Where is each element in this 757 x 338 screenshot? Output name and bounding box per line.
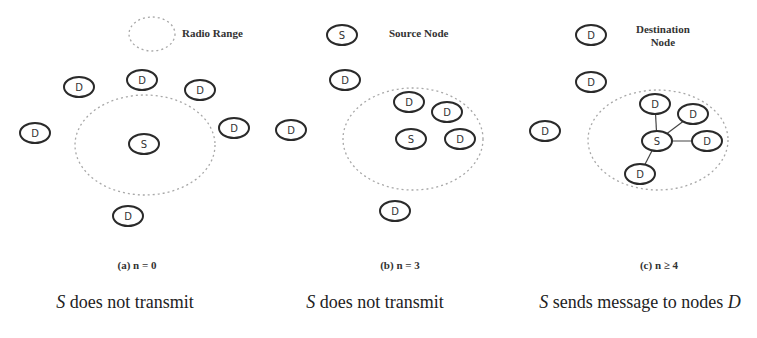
destination-node: D	[625, 164, 655, 184]
panel-b-caption: (b) n = 3	[380, 259, 420, 271]
source-node: S	[396, 129, 426, 149]
svg-text:D: D	[230, 123, 238, 134]
legend-destination-line2: Node	[636, 36, 690, 49]
description-text: sends message to nodes	[548, 292, 727, 312]
panel-c-caption: (c) n ≥ 4	[640, 259, 678, 271]
destination-node: D	[185, 80, 215, 100]
svg-text:D: D	[75, 82, 83, 93]
legend-source-node-icon: S	[327, 25, 357, 45]
destination-node: D	[432, 102, 462, 122]
legend-destination-line1: Destination	[636, 23, 690, 36]
destination-node: D	[64, 77, 94, 97]
panel-c: DDDDDDS	[530, 72, 728, 190]
destination-node: D	[276, 120, 306, 140]
destination-node: D	[692, 131, 722, 151]
svg-text:D: D	[443, 107, 451, 118]
svg-text:D: D	[689, 109, 697, 120]
legend-destination-node-icon: D	[576, 25, 606, 45]
svg-text:D: D	[391, 206, 399, 217]
svg-text:D: D	[651, 99, 659, 110]
panel-a: DDDDDDS	[20, 70, 249, 226]
destination-node: D	[113, 206, 143, 226]
source-node: S	[642, 131, 672, 151]
panel-a-caption: (a) n = 0	[118, 259, 157, 271]
svg-text:D: D	[124, 211, 132, 222]
subject-s: S	[539, 292, 548, 312]
svg-text:D: D	[636, 169, 644, 180]
description-text: does not transmit	[315, 292, 444, 312]
destination-node: D	[219, 118, 249, 138]
destination-node: D	[530, 121, 560, 141]
legend-radio-range-label: Radio Range	[182, 27, 243, 39]
svg-text:D: D	[456, 134, 464, 145]
panel-c-description: S sends message to nodes D	[539, 292, 740, 313]
subject-s: S	[56, 292, 65, 312]
destination-node: D	[330, 70, 360, 90]
legend-source-node-label: Source Node	[389, 27, 448, 39]
destination-node: D	[445, 129, 475, 149]
svg-text:D: D	[287, 125, 295, 136]
svg-text:D: D	[31, 128, 39, 139]
svg-text:D: D	[541, 126, 549, 137]
svg-text:S: S	[654, 136, 660, 147]
svg-text:D: D	[196, 85, 204, 96]
destination-node: D	[640, 94, 670, 114]
destination-node: D	[576, 72, 606, 92]
svg-text:D: D	[405, 97, 413, 108]
svg-text:S: S	[408, 134, 414, 145]
svg-text:D: D	[341, 75, 349, 86]
panel-a-description: S does not transmit	[56, 292, 194, 313]
legend-destination-node-label: Destination Node	[636, 23, 690, 49]
svg-text:D: D	[587, 77, 595, 88]
svg-text:S: S	[339, 30, 345, 41]
panel-b-description: S does not transmit	[306, 292, 444, 313]
source-node: S	[129, 134, 159, 154]
svg-text:D: D	[587, 30, 595, 41]
destination-node: D	[394, 92, 424, 112]
destination-node: D	[127, 70, 157, 90]
diagram-canvas: S D DDDDDDSDDDDDDSDDDDDDS	[0, 0, 757, 338]
subject-s: S	[306, 292, 315, 312]
destination-node: D	[380, 201, 410, 221]
destination-node: D	[678, 104, 708, 124]
svg-text:D: D	[703, 136, 711, 147]
svg-text:D: D	[138, 75, 146, 86]
destination-node: D	[20, 123, 50, 143]
svg-text:S: S	[141, 139, 147, 150]
panel-b: DDDDDDS	[276, 70, 483, 221]
description-text: does not transmit	[65, 292, 194, 312]
object-d: D	[728, 292, 741, 312]
legend-radio-range-icon	[129, 17, 175, 51]
